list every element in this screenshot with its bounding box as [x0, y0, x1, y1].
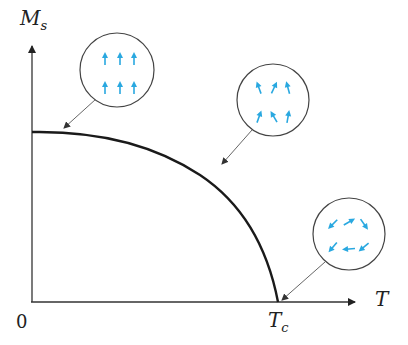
inset-partial-spins [222, 64, 309, 164]
x-axis-label: T [375, 287, 388, 311]
magnetization-diagram [0, 0, 408, 345]
origin-label: 0 [16, 311, 27, 332]
magnetization-curve [32, 132, 278, 302]
y-axis-label: Ms [20, 6, 47, 33]
critical-temperature-label: Tc [268, 308, 289, 335]
inset-aligned-spins [64, 33, 154, 128]
inset-disordered-spins [282, 198, 385, 300]
